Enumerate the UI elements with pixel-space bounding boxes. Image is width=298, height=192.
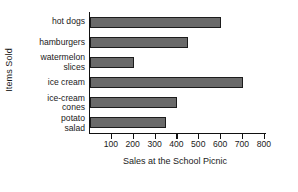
bar-hot-dogs[interactable] [90,17,221,28]
category-label-hamburgers: hamburgers [16,32,88,52]
category-label-line2: slices [64,63,86,73]
category-label-line1: hot dogs [52,17,85,27]
bar-chart: Items Sold hot dogs hamburgers watermelo… [0,0,298,192]
category-label-watermelon-slices: watermelon slices [16,53,88,73]
x-tick-label: 800 [257,139,271,149]
x-tick-label: 300 [147,139,161,149]
category-label-hot-dogs: hot dogs [16,12,88,32]
bar-slot [90,52,266,72]
x-tick-label: 600 [213,139,227,149]
category-label-ice-cream-cones: ice-cream cones [16,93,88,113]
bar-ice-cream-cones[interactable] [90,97,177,108]
category-label-line2: salad [64,124,85,134]
bar-hamburgers[interactable] [90,37,188,48]
bar-slot [90,32,266,52]
bar-slot [90,12,266,32]
category-label-line1: ice cream [48,78,85,88]
bar-slot [90,93,266,113]
category-axis-labels: hot dogs hamburgers watermelon slices ic… [16,12,88,134]
plot-area [89,12,266,134]
bar-slot [90,113,266,133]
bar-potato-salad[interactable] [90,117,166,128]
x-axis-title: Sales at the School Picnic [60,156,290,166]
category-label-ice-cream: ice cream [16,73,88,93]
x-axis-tick-labels: 100200300400500600700800 [89,139,266,151]
category-label-line2: cones [62,103,85,113]
x-tick-label: 100 [104,139,118,149]
category-label-line1: hamburgers [39,38,85,48]
x-tick-label: 500 [191,139,205,149]
y-axis-title-text: Items Sold [4,48,14,92]
bar-slot [90,73,266,93]
x-tick-label: 200 [126,139,140,149]
bar-series [90,12,266,133]
bar-ice-cream[interactable] [90,77,243,88]
x-tick-label: 400 [169,139,183,149]
bar-watermelon-slices[interactable] [90,57,134,68]
x-tick-label: 700 [235,139,249,149]
category-label-potato-salad: potato salad [16,114,88,134]
